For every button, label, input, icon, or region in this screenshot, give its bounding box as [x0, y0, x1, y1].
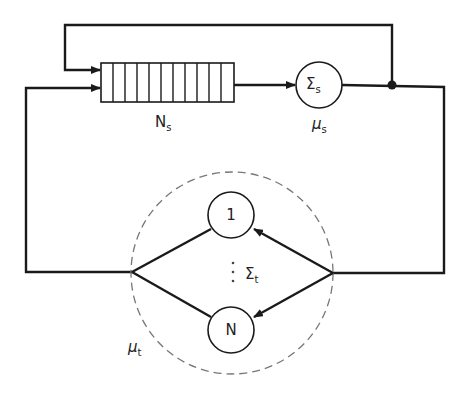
from-terminal-1-wire: [132, 229, 211, 272]
return-wire-left: [26, 88, 132, 272]
terminal-node-n-label: N: [225, 321, 236, 339]
terminal-group-symbol: Σt: [245, 265, 258, 285]
to-terminal-n-wire: [254, 273, 333, 317]
terminal-node-1-label: 1: [226, 206, 236, 224]
queue-buffer: [101, 63, 234, 102]
queueing-network-diagram: Ns Σs μs 1 N Σt μt: [0, 0, 472, 399]
from-terminal-n-wire: [132, 272, 211, 317]
server-output-wire: [333, 85, 444, 273]
junction-dot: [388, 81, 397, 90]
terminal-group-rate: μt: [127, 338, 142, 358]
to-terminal-1-wire: [254, 229, 333, 273]
vertical-ellipsis: [232, 262, 235, 283]
queue-label: Ns: [155, 113, 171, 133]
server-s-rate: μs: [311, 115, 327, 135]
